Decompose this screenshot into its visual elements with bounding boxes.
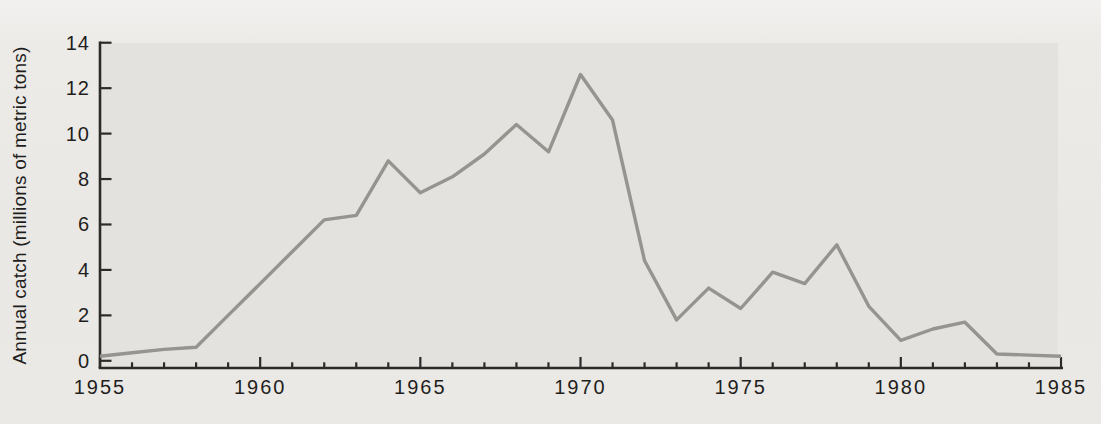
x-tick-label: 1970 — [554, 376, 607, 398]
y-tick-label: 4 — [78, 259, 90, 281]
y-axis-title: Annual catch (millions of metric tons) — [9, 46, 30, 364]
x-tick-label: 1980 — [875, 376, 928, 398]
y-tick-label: 2 — [78, 304, 90, 326]
y-tick-label: 14 — [66, 32, 90, 54]
x-tick-label: 1965 — [394, 376, 447, 398]
line-chart: 02468101214 1955196019651970197519801985… — [0, 0, 1101, 424]
x-tick-label: 1985 — [1035, 376, 1088, 398]
y-tick-label: 0 — [78, 350, 90, 372]
y-tick-label: 10 — [66, 123, 90, 145]
y-axis-tick-labels: 02468101214 — [66, 32, 90, 372]
plot-area — [102, 43, 1059, 368]
figure-container: 02468101214 1955196019651970197519801985… — [0, 0, 1101, 424]
x-tick-label: 1975 — [714, 376, 767, 398]
x-tick-label: 1960 — [234, 376, 287, 398]
x-tick-label: 1955 — [74, 376, 127, 398]
y-tick-label: 6 — [78, 213, 90, 235]
x-axis-tick-labels: 1955196019651970197519801985 — [74, 376, 1088, 398]
y-tick-label: 8 — [78, 168, 90, 190]
y-tick-label: 12 — [66, 77, 90, 99]
